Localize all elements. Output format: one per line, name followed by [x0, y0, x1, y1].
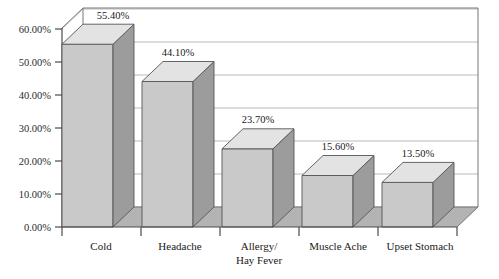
data-label: 23.70% — [242, 114, 275, 125]
ytick-label-0: 0.00% — [24, 222, 51, 233]
x-axis-ticks — [62, 227, 457, 236]
bar-front-face — [142, 82, 193, 228]
bar-side-face — [113, 24, 134, 227]
ytick-label-40: 40.00% — [19, 90, 52, 101]
ytick-label-20: 20.00% — [19, 156, 52, 167]
xtick-label-allergy-line2: Hay Fever — [236, 254, 282, 266]
chart-3d-column: 0.00% 10.00% 20.00% 30.00% 40.00% 50.00%… — [0, 0, 499, 279]
xtick-label-muscle-ache: Muscle Ache — [309, 240, 367, 252]
data-label: 44.10% — [162, 47, 195, 58]
xtick-label-upset-stomach: Upset Stomach — [387, 240, 454, 252]
ytick-label-10: 10.00% — [19, 189, 52, 200]
bar-cold: 55.40% — [62, 10, 134, 227]
data-label: 13.50% — [402, 148, 435, 159]
xtick-label-allergy-line1: Allergy/ — [241, 240, 278, 252]
xtick-label-headache: Headache — [158, 240, 201, 252]
bar-side-face — [193, 62, 214, 228]
bar-front-face — [382, 182, 433, 227]
data-label: 15.60% — [322, 141, 355, 152]
x-axis-labels: Cold Headache Allergy/ Hay Fever Muscle … — [90, 240, 454, 266]
chart-svg: 0.00% 10.00% 20.00% 30.00% 40.00% 50.00%… — [0, 0, 499, 279]
bar-front-face — [62, 44, 113, 227]
xtick-label-cold: Cold — [90, 240, 112, 252]
bar-headache: 44.10% — [142, 47, 214, 227]
ytick-label-50: 50.00% — [19, 57, 52, 68]
ytick-label-60: 60.00% — [19, 24, 52, 35]
y-axis-labels: 0.00% 10.00% 20.00% 30.00% 40.00% 50.00%… — [19, 24, 52, 233]
bar-front-face — [302, 176, 353, 228]
bar-front-face — [222, 149, 273, 227]
data-label: 55.40% — [97, 10, 130, 21]
y-axis-ticks — [55, 29, 62, 227]
ytick-label-30: 30.00% — [19, 123, 52, 134]
